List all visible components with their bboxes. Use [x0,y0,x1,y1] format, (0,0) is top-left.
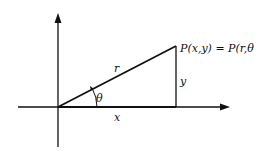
x-axis-arrow-icon [220,104,230,111]
x-label: x [114,111,121,124]
y-label: y [179,75,187,88]
hypotenuse-r [58,46,176,107]
point-label: P(x,y) = P(r,θ) [179,42,254,55]
y-axis-arrow-icon [55,13,62,23]
r-label: r [114,62,120,75]
theta-label: θ [96,92,103,105]
polar-coordinates-diagram: P(x,y) = P(r,θ) r y x θ [0,0,254,158]
